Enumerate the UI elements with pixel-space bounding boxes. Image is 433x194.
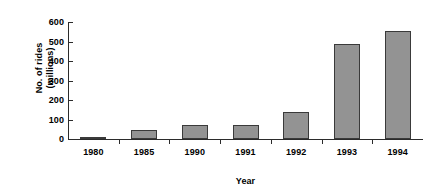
y-axis-tick-label: 500 — [28, 37, 64, 47]
y-axis-tick-mark — [69, 22, 73, 23]
x-axis-tick-mark — [372, 140, 373, 144]
x-axis-tick-label: 1985 — [119, 147, 170, 158]
bar — [131, 130, 157, 139]
bar — [283, 112, 309, 139]
x-axis-tick-mark — [322, 140, 323, 144]
y-axis-tick-label: 0 — [28, 134, 64, 144]
x-axis-tick-label: 1991 — [220, 147, 271, 158]
bar — [80, 137, 106, 139]
bar — [233, 125, 259, 139]
y-axis-tick-label: 100 — [28, 115, 64, 125]
x-axis-tick-mark — [271, 140, 272, 144]
bar — [334, 44, 360, 139]
y-axis-tick-mark — [69, 81, 73, 82]
x-axis-tick-labels: 1980198519901991199219931994 — [68, 147, 423, 161]
bar-chart: No. of rides (millions) 6005004003002001… — [0, 0, 433, 194]
x-axis-tick-label: 1993 — [322, 147, 373, 158]
plot-area — [68, 22, 423, 139]
x-axis-tick-label: 1980 — [68, 147, 119, 158]
y-axis-tick-mark — [69, 139, 73, 140]
x-axis-tick-mark — [220, 140, 221, 144]
y-axis-tick-label: 300 — [28, 76, 64, 86]
bar — [182, 125, 208, 139]
x-axis-tick-mark — [119, 140, 120, 144]
x-axis-tick-label: 1994 — [372, 147, 423, 158]
x-axis-line — [68, 139, 423, 140]
x-axis-tick-label: 1992 — [271, 147, 322, 158]
x-axis-title: Year — [68, 176, 423, 186]
y-axis-tick-mark — [69, 100, 73, 101]
y-axis-tick-mark — [69, 120, 73, 121]
y-axis-tick-labels: 6005004003002001000 — [28, 16, 64, 144]
y-axis-tick-label: 400 — [28, 56, 64, 66]
y-axis-tick-mark — [69, 61, 73, 62]
y-axis-tick-label: 600 — [28, 17, 64, 27]
y-axis-tick-label: 200 — [28, 95, 64, 105]
bar — [385, 31, 411, 139]
y-axis-tick-mark — [69, 42, 73, 43]
x-axis-tick-mark — [169, 140, 170, 144]
x-axis-tick-label: 1990 — [169, 147, 220, 158]
